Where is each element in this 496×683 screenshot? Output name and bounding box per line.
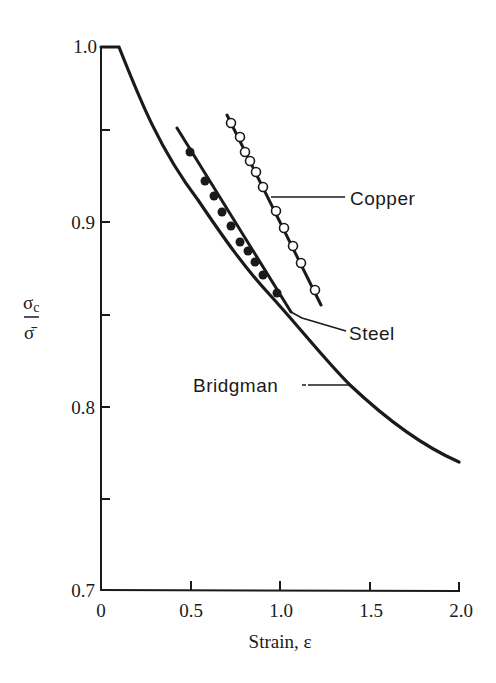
x-axis-title: Strain, ε bbox=[249, 631, 312, 652]
x-tick-label-2.0: 2.0 bbox=[449, 600, 473, 621]
bridgman-curve bbox=[101, 47, 459, 462]
copper-point bbox=[227, 119, 236, 128]
y-axis-title-numerator: σc bbox=[23, 292, 39, 315]
steel-markers bbox=[186, 148, 282, 298]
x-tick-label-0.5: 0.5 bbox=[179, 600, 203, 621]
steel-point bbox=[244, 247, 253, 256]
copper-point bbox=[236, 133, 245, 142]
bridgman-label: Bridgman bbox=[193, 375, 278, 396]
x-tick-label-0: 0 bbox=[96, 600, 106, 621]
steel-point bbox=[259, 271, 268, 280]
steel-series bbox=[177, 128, 291, 312]
steel-point bbox=[201, 177, 210, 186]
copper-point bbox=[241, 148, 250, 157]
x-axis bbox=[100, 590, 460, 591]
x-tick-label-1.5: 1.5 bbox=[359, 600, 383, 621]
copper-point bbox=[272, 207, 281, 216]
y-tick-label-0.9: 0.9 bbox=[71, 212, 95, 233]
steel-fit-line bbox=[177, 128, 291, 312]
steel-point bbox=[210, 192, 219, 201]
copper-series bbox=[227, 115, 322, 305]
y-tick-label-1.0: 1.0 bbox=[73, 36, 97, 57]
y-axis-title-denominator: σ̄ bbox=[24, 322, 37, 343]
steel-point bbox=[273, 289, 282, 298]
steel-point bbox=[186, 148, 195, 157]
steel-point bbox=[251, 258, 260, 267]
y-tick-label-0.8: 0.8 bbox=[71, 397, 95, 418]
steel-label: Steel bbox=[349, 323, 395, 344]
flow-stress-ratio-chart: 1.0 0.9 0.8 0.7 0 0.5 1.0 1.5 2.0 Strain… bbox=[0, 0, 496, 683]
copper-point bbox=[246, 157, 255, 166]
y-axis-title: σc σ̄ bbox=[23, 292, 39, 343]
copper-point bbox=[259, 183, 268, 192]
steel-point bbox=[218, 208, 227, 217]
copper-point bbox=[252, 168, 261, 177]
y-tick-label-0.7: 0.7 bbox=[71, 580, 95, 601]
steel-point bbox=[227, 222, 236, 231]
steel-point bbox=[236, 238, 245, 247]
copper-point bbox=[280, 224, 289, 233]
copper-point bbox=[297, 259, 306, 268]
copper-point bbox=[289, 242, 298, 251]
copper-point bbox=[311, 286, 320, 295]
x-tick-label-1.0: 1.0 bbox=[269, 600, 293, 621]
copper-label: Copper bbox=[350, 188, 415, 209]
